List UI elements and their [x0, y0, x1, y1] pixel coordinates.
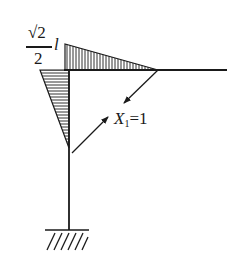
- moment-value-label: √2 2 l: [26, 24, 60, 70]
- column-moment-diagram: [40, 70, 69, 148]
- force-arrow-upper: [124, 70, 158, 103]
- force-label: X1=1: [114, 110, 147, 129]
- beam-moment-diagram: [65, 44, 158, 70]
- fixed-support-icon: [45, 230, 89, 250]
- fraction-bar: [26, 46, 52, 48]
- fraction-numerator: √2: [28, 24, 46, 41]
- length-variable: l: [54, 36, 59, 53]
- force-variable: X: [114, 109, 124, 128]
- force-value: =1: [129, 109, 147, 128]
- fraction-denominator: 2: [34, 50, 43, 67]
- force-arrow-lower: [72, 117, 108, 153]
